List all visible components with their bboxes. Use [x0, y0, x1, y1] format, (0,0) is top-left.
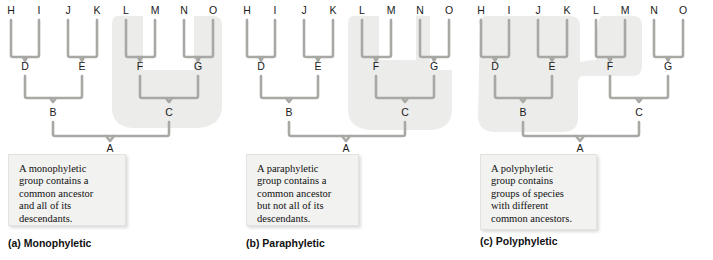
cladogram-c: H I J K L M N O D E F G B C A — [470, 0, 713, 160]
tip-label-O: O — [445, 4, 453, 16]
cladogram-a: H I J K L M N O D E F G B C A — [0, 0, 243, 160]
tip-label-K: K — [93, 4, 100, 16]
tip-label-N: N — [180, 4, 188, 16]
tip-label-M: M — [151, 4, 160, 16]
tip-label-J: J — [301, 4, 306, 16]
tip-label-I: I — [274, 4, 277, 16]
tip-label-I: I — [508, 4, 511, 16]
node-label-E: E — [548, 60, 555, 72]
tip-label-J: J — [65, 4, 70, 16]
tip-label-L: L — [593, 4, 599, 16]
node-label-D: D — [491, 60, 499, 72]
tip-label-H: H — [243, 4, 251, 16]
node-label-G: G — [194, 60, 202, 72]
node-label-D: D — [257, 60, 265, 72]
tip-label-N: N — [416, 4, 424, 16]
paraphyletic-shading — [348, 16, 452, 130]
panel-caption-c: (c) Polyphyletic — [480, 235, 558, 247]
node-label-C: C — [635, 106, 643, 118]
highlight-region-b — [348, 16, 452, 130]
node-label-G: G — [664, 60, 672, 72]
panel-caption-a: (a) Monophyletic — [8, 237, 91, 249]
tip-label-H: H — [477, 4, 485, 16]
cladogram-b: H I J K L M N O D E F G B C A — [236, 0, 479, 160]
polyphyletic-description-box: A polyphyletic group contains groups of … — [480, 154, 597, 230]
tip-label-K: K — [563, 4, 570, 16]
polyphyletic-shading — [478, 16, 642, 132]
panel-caption-b: (b) Paraphyletic — [246, 237, 325, 249]
tip-label-J: J — [535, 4, 540, 16]
node-label-E: E — [314, 60, 321, 72]
node-label-F: F — [137, 60, 143, 72]
tip-label-N: N — [650, 4, 658, 16]
tip-label-H: H — [7, 4, 15, 16]
tip-label-O: O — [679, 4, 687, 16]
tip-label-L: L — [359, 4, 365, 16]
node-label-F: F — [607, 60, 613, 72]
panel-monophyletic: H I J K L M N O D E F G B C A A monophyl… — [0, 0, 237, 260]
paraphyletic-description-box: A paraphyletic group contains a common a… — [246, 154, 359, 226]
tip-label-I: I — [38, 4, 41, 16]
phylogeny-figure: H I J K L M N O D E F G B C A A monophyl… — [0, 0, 713, 260]
panel-paraphyletic: H I J K L M N O D E F G B C A A paraphyl… — [236, 0, 473, 260]
node-label-C: C — [165, 106, 173, 118]
node-label-A: A — [576, 142, 583, 154]
node-label-C: C — [401, 106, 409, 118]
node-label-F: F — [373, 60, 379, 72]
tip-label-M: M — [387, 4, 396, 16]
monophyletic-description-box: A monophyletic group contains a common a… — [8, 154, 126, 226]
tip-label-M: M — [621, 4, 630, 16]
node-label-G: G — [430, 60, 438, 72]
node-label-B: B — [49, 106, 56, 118]
node-label-D: D — [21, 60, 29, 72]
panel-polyphyletic: H I J K L M N O D E F G B C A A polyphyl… — [470, 0, 707, 260]
tip-label-O: O — [209, 4, 217, 16]
node-label-E: E — [78, 60, 85, 72]
node-label-A: A — [342, 142, 349, 154]
node-label-A: A — [106, 142, 113, 154]
highlight-region-c — [478, 16, 642, 132]
tip-label-K: K — [329, 4, 336, 16]
node-label-B: B — [519, 106, 526, 118]
tip-label-L: L — [123, 4, 129, 16]
node-label-B: B — [285, 106, 292, 118]
